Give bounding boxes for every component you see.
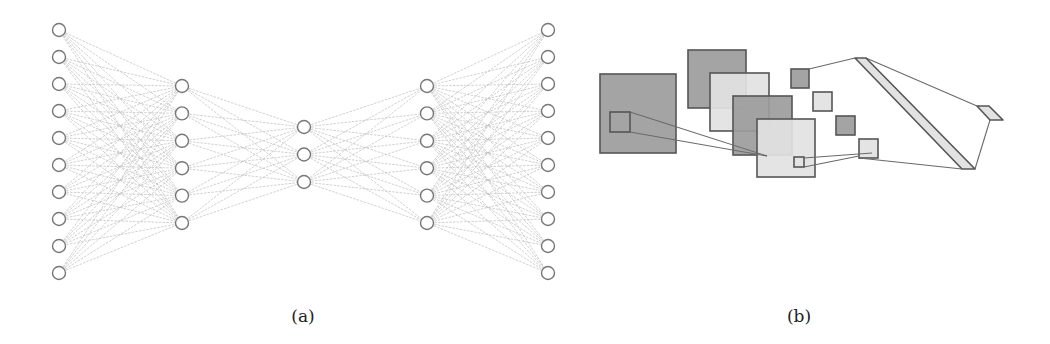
network-edge: [182, 127, 304, 168]
figure-canvas: [0, 0, 1050, 344]
network-edge: [304, 86, 427, 155]
network-edge: [304, 86, 427, 127]
neuron-node-input: [53, 78, 66, 91]
network-edge: [59, 113, 182, 165]
neuron-node-hidden-1: [176, 107, 189, 120]
network-edge: [427, 57, 548, 168]
network-edge: [427, 30, 548, 141]
network-edge: [304, 113, 427, 182]
pooled-map-2: [813, 92, 832, 111]
neuron-node-input: [53, 240, 66, 253]
output-layer: [977, 106, 1003, 120]
feature-maps: [600, 50, 878, 177]
panel-a-autoencoder: [53, 24, 555, 280]
neuron-node-hidden-2: [421, 134, 434, 147]
neuron-node-output: [542, 267, 555, 280]
neuron-node-hidden-1: [176, 189, 189, 202]
flatten-connection-top: [809, 58, 855, 69]
neuron-node-output: [542, 51, 555, 64]
network-edge: [182, 155, 304, 196]
network-edge: [427, 86, 548, 111]
network-edge: [304, 155, 427, 196]
neuron-node-output: [542, 159, 555, 172]
network-edge: [59, 113, 182, 273]
neuron-node-hidden-1: [176, 134, 189, 147]
network-edge: [427, 223, 548, 273]
neuron-node-hidden-1: [176, 162, 189, 175]
network-edge: [427, 84, 548, 196]
neuron-node-input: [53, 132, 66, 145]
neuron-node-hidden-2: [421, 162, 434, 175]
pooled-map-1: [791, 69, 809, 88]
network-edge: [427, 30, 548, 113]
network-edge: [427, 84, 548, 113]
neuron-node-input: [53, 105, 66, 118]
neuron-node-hidden-2: [421, 189, 434, 202]
neuron-node-hidden-1: [176, 80, 189, 93]
network-edge: [182, 127, 304, 141]
network-edge: [182, 182, 304, 196]
neuron-node-hidden-2: [421, 80, 434, 93]
neuron-node-output: [542, 132, 555, 145]
caption-b: (b): [787, 306, 811, 326]
neuron-node-bottleneck: [298, 121, 311, 134]
neuron-node-input: [53, 24, 66, 37]
neuron-node-bottleneck: [298, 176, 311, 189]
network-edge: [427, 168, 548, 273]
network-edge: [304, 182, 427, 223]
flatten-connection-bottom: [859, 158, 962, 169]
network-edge: [182, 155, 304, 169]
neuron-node-output: [542, 240, 555, 253]
network-edge: [304, 141, 427, 182]
network-edge: [427, 84, 548, 168]
neuron-node-output: [542, 213, 555, 226]
neuron-node-input: [53, 267, 66, 280]
neuron-node-hidden-1: [176, 217, 189, 230]
network-edge: [304, 86, 427, 182]
network-edge: [427, 30, 548, 168]
neuron-node-output: [542, 105, 555, 118]
network-edge: [182, 86, 304, 127]
neuron-node-input: [53, 51, 66, 64]
neuron-node-bottleneck: [298, 148, 311, 161]
network-edge: [59, 111, 182, 141]
panel-b-cnn: [600, 50, 1003, 177]
neuron-node-output: [542, 186, 555, 199]
neuron-node-hidden-2: [421, 107, 434, 120]
network-edge: [59, 86, 182, 246]
feature-map-4: [757, 119, 815, 177]
neuron-node-input: [53, 213, 66, 226]
network-edge: [59, 168, 182, 273]
neuron-node-output: [542, 24, 555, 37]
network-edge: [59, 84, 182, 113]
caption-a: (a): [291, 306, 314, 326]
neuron-node-input: [53, 159, 66, 172]
network-edge: [427, 57, 548, 141]
dense-connection-bottom: [975, 120, 990, 169]
network-edge: [427, 111, 548, 223]
network-edge: [59, 86, 182, 138]
network-edge: [182, 182, 304, 223]
input-map: [600, 74, 676, 153]
neuron-node-output: [542, 78, 555, 91]
neuron-node-hidden-2: [421, 217, 434, 230]
pooled-map-3: [836, 116, 855, 135]
pooled-map-4: [859, 139, 878, 158]
neuron-node-input: [53, 186, 66, 199]
network-edge: [182, 113, 304, 127]
network-edge: [304, 155, 427, 224]
